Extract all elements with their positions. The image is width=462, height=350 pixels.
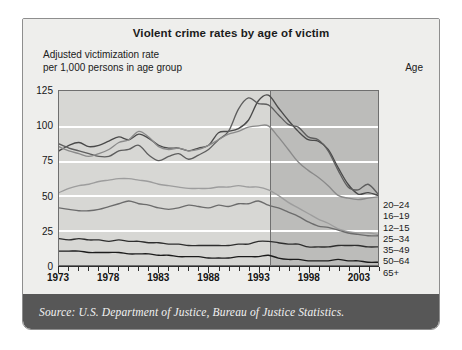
series-line-16-19 (59, 98, 378, 194)
x-tick-1997 (299, 267, 300, 271)
chart-title: Violent crime rates by age of victim (23, 27, 439, 39)
x-tick-1984 (168, 267, 169, 271)
x-tick-label-1978: 1978 (97, 272, 119, 283)
x-tick-1974 (68, 267, 69, 271)
x-tick-1975 (78, 267, 79, 271)
x-tick-2000 (329, 267, 330, 271)
x-tick-1982 (148, 267, 149, 271)
legend-item-20-24: 20–24 (383, 199, 435, 210)
y-tick-label-50: 50 (42, 190, 53, 201)
series-line-65+ (59, 251, 378, 262)
plot-wrapper: 0255075100125 (58, 90, 379, 266)
chart-subtitle: Adjusted victimization rate per 1,000 pe… (43, 49, 182, 74)
x-tick-1977 (98, 267, 99, 271)
series-line-35-49 (59, 201, 378, 236)
y-tick-label-25: 25 (42, 225, 53, 236)
x-tick-1987 (198, 267, 199, 271)
x-tick-1999 (319, 267, 320, 271)
y-tick-label-0: 0 (47, 261, 53, 272)
x-tick-1989 (219, 267, 220, 271)
plot-area (58, 90, 379, 266)
legend-item-16-19: 16–19 (383, 210, 435, 221)
x-tick-1986 (188, 267, 189, 271)
x-tick-1976 (88, 267, 89, 271)
chart-card: Violent crime rates by age of victim Adj… (22, 18, 440, 330)
series-line-50-64 (59, 239, 378, 248)
legend-item-50-64: 50–64 (383, 255, 435, 266)
screenshot-root: Violent crime rates by age of victim Adj… (0, 0, 462, 350)
series-lines (59, 91, 378, 265)
x-tick-1979 (118, 267, 119, 271)
x-tick-2005 (379, 267, 380, 271)
x-tick-2001 (339, 267, 340, 271)
x-tick-1996 (289, 267, 290, 271)
x-tick-1994 (269, 267, 270, 271)
y-tick-label-75: 75 (42, 155, 53, 166)
source-footer: Source: U.S. Department of Justice, Bure… (23, 294, 439, 329)
series-line-12-15 (59, 125, 378, 200)
x-tick-2002 (349, 267, 350, 271)
legend-item-35-49: 35–49 (383, 244, 435, 255)
x-tick-2004 (369, 267, 370, 271)
x-tick-1990 (229, 267, 230, 271)
x-tick-1992 (249, 267, 250, 271)
x-tick-1980 (128, 267, 129, 271)
y-tick-label-100: 100 (36, 120, 53, 131)
x-tick-label-1973: 1973 (47, 272, 69, 283)
x-tick-1985 (178, 267, 179, 271)
x-tick-label-1988: 1988 (197, 272, 219, 283)
chart-body: Violent crime rates by age of victim Adj… (23, 19, 439, 295)
x-tick-label-1993: 1993 (248, 272, 270, 283)
y-tick-label-125: 125 (36, 85, 53, 96)
legend: 20–2416–1912–1525–3435–4950–6465+ (383, 199, 435, 278)
x-tick-1981 (138, 267, 139, 271)
x-tick-1991 (239, 267, 240, 271)
x-tick-label-1983: 1983 (147, 272, 169, 283)
legend-title: Age (405, 62, 423, 73)
x-tick-label-1998: 1998 (298, 272, 320, 283)
x-tick-label-2003: 2003 (348, 272, 370, 283)
legend-item-25-34: 25–34 (383, 233, 435, 244)
legend-item-12-15: 12–15 (383, 222, 435, 233)
legend-item-65+: 65+ (383, 267, 435, 278)
x-tick-1995 (279, 267, 280, 271)
source-text: Source: U.S. Department of Justice, Bure… (39, 306, 344, 318)
